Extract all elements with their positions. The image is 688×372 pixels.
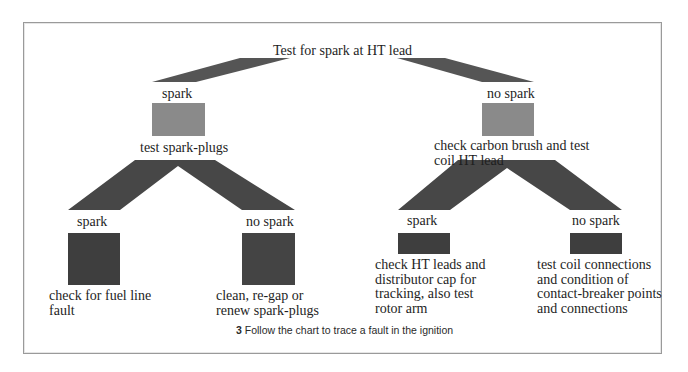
decision-box-check-carbon-brush bbox=[482, 103, 534, 136]
step-check-carbon-brush: check carbon brush and test coil HT lead bbox=[434, 139, 590, 168]
branch-label-rl-spark: spark bbox=[407, 214, 437, 228]
branch-label-no-spark: no spark bbox=[487, 87, 535, 101]
caption-text: Follow the chart to trace a fault in the… bbox=[245, 324, 453, 336]
root-question: Test for spark at HT lead bbox=[273, 44, 412, 58]
caption-number: 3 bbox=[236, 324, 242, 336]
result-renew-spark-plugs: clean, re-gap or renew spark-plugs bbox=[216, 289, 319, 318]
figure-caption: 3 Follow the chart to trace a fault in t… bbox=[236, 324, 453, 336]
branch-label-lr-no-spark: no spark bbox=[246, 215, 294, 229]
result-box-renew-plugs bbox=[242, 233, 295, 285]
result-box-coil-connections bbox=[570, 233, 622, 254]
branch-label-rr-no-spark: no spark bbox=[572, 214, 620, 228]
step-test-spark-plugs: test spark-plugs bbox=[140, 141, 228, 155]
branch-label-spark: spark bbox=[162, 87, 192, 101]
decision-box-test-spark-plugs bbox=[152, 103, 205, 136]
result-box-ht-leads bbox=[398, 233, 450, 254]
result-check-ht-leads: check HT leads and distributor cap for t… bbox=[375, 258, 486, 316]
branch-label-ll-spark: spark bbox=[77, 215, 107, 229]
result-fuel-line-fault: check for fuel line fault bbox=[49, 289, 151, 318]
connector-root-right bbox=[397, 58, 534, 82]
connector-chevron-left bbox=[68, 160, 295, 210]
result-test-coil-connections: test coil connections and condition of c… bbox=[537, 258, 662, 316]
result-box-fuel-line bbox=[68, 233, 120, 285]
connector-root-left bbox=[152, 58, 290, 82]
